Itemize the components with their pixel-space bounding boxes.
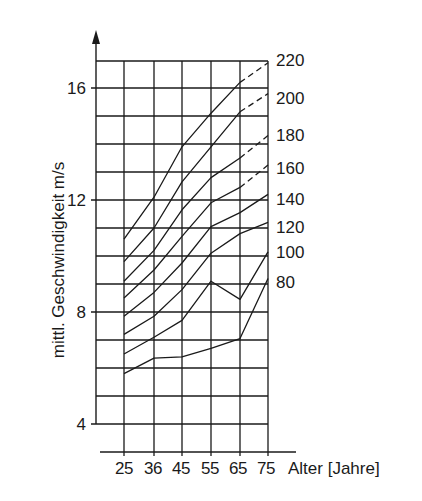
x-axis-label: Alter [Jahre] [288, 459, 380, 478]
grid [91, 61, 268, 456]
svg-text:8: 8 [77, 303, 86, 322]
svg-text:220: 220 [276, 51, 304, 70]
svg-text:120: 120 [276, 218, 304, 237]
svg-text:16: 16 [67, 79, 86, 98]
svg-text:55: 55 [201, 459, 219, 478]
svg-text:100: 100 [276, 243, 304, 262]
svg-text:45: 45 [172, 459, 190, 478]
svg-text:4: 4 [77, 415, 86, 434]
svg-text:180: 180 [276, 126, 304, 145]
svg-text:200: 200 [276, 89, 304, 108]
svg-text:36: 36 [144, 459, 162, 478]
axes [92, 30, 296, 452]
data-series [124, 63, 268, 374]
series-labels: 22020018016014012010080 [276, 51, 304, 292]
tick-labels: 481216253645556575 [67, 79, 275, 478]
svg-text:140: 140 [276, 190, 304, 209]
svg-text:65: 65 [229, 459, 247, 478]
y-axis-label: mittl. Geschwindigkeit m/s [49, 110, 71, 410]
svg-text:75: 75 [257, 459, 275, 478]
svg-text:80: 80 [276, 273, 295, 292]
svg-text:25: 25 [115, 459, 133, 478]
svg-text:160: 160 [276, 159, 304, 178]
